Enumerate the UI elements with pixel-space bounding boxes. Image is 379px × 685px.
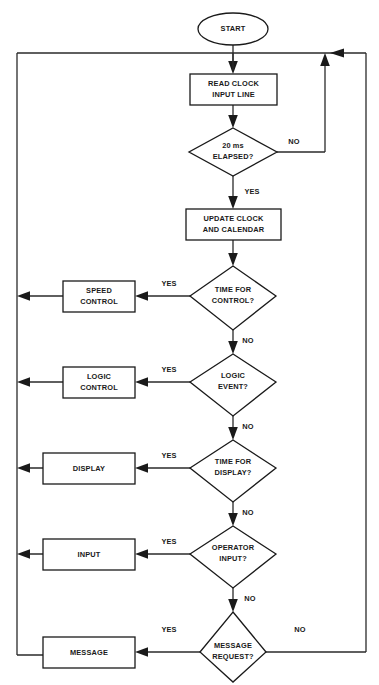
edge-label-elapsed-no: NO (288, 137, 299, 146)
edge-label-display-yes: YES (161, 451, 176, 460)
edge-label-operator-no: NO (244, 594, 255, 603)
node-time-for-control-line1: TIME FOR (215, 285, 252, 294)
edge-display-yes (135, 463, 194, 473)
edge-speed-control-to-bus (17, 291, 63, 301)
edge-label-control-no: NO (242, 336, 253, 345)
edge-operator-no (228, 588, 238, 612)
top-return-bus (17, 49, 366, 58)
edge-elapsed-no-return (277, 53, 330, 152)
edge-read-clock-to-elapsed (228, 105, 238, 128)
edge-logic-control-to-bus (17, 377, 63, 387)
node-time-for-display-line1: TIME FOR (215, 457, 252, 466)
edge-message-yes (135, 647, 200, 657)
node-start[interactable]: START (198, 13, 268, 45)
edge-logic-no (228, 416, 238, 440)
node-logic-control[interactable]: LOGIC CONTROL (63, 367, 135, 398)
arrowhead-top-left (330, 49, 344, 58)
node-message-request-line1: MESSAGE (214, 641, 252, 650)
node-message-request-decision[interactable]: MESSAGE REQUEST? (200, 612, 266, 682)
node-elapsed-line1: 20 ms (222, 141, 244, 150)
node-read-clock[interactable]: READ CLOCK INPUT LINE (190, 74, 277, 105)
node-logic-event-line2: EVENT? (218, 382, 248, 391)
edge-label-logic-yes: YES (161, 365, 176, 374)
node-operator-input-line1: OPERATOR (212, 543, 255, 552)
edge-label-logic-no: NO (242, 422, 253, 431)
node-speed-control-line1: SPEED (86, 286, 112, 295)
node-start-label: START (221, 24, 246, 33)
node-time-for-display-decision[interactable]: TIME FOR DISPLAY? (190, 440, 276, 502)
node-update-clock-line1: UPDATE CLOCK (204, 214, 264, 223)
edge-label-message-no: NO (294, 625, 305, 634)
edge-elapsed-yes (228, 176, 238, 209)
node-display[interactable]: DISPLAY (43, 453, 135, 484)
node-logic-event-decision[interactable]: LOGIC EVENT? (190, 354, 276, 416)
edge-label-message-yes: YES (161, 625, 176, 634)
node-time-for-control-line2: CONTROL? (212, 296, 255, 305)
node-operator-input-line2: INPUT? (219, 554, 247, 563)
node-message-line1: MESSAGE (70, 648, 108, 657)
node-input[interactable]: INPUT (43, 539, 135, 570)
node-update-clock-line2: AND CALENDAR (203, 225, 265, 234)
edge-operator-yes (135, 549, 194, 559)
node-time-for-display-line2: DISPLAY? (214, 468, 251, 477)
arrowhead-elapsed-no-up (320, 53, 330, 66)
node-logic-control-line2: CONTROL (80, 383, 118, 392)
edge-update-to-control (228, 240, 238, 266)
edge-control-no (228, 330, 238, 354)
node-message-request-line2: REQUEST? (212, 652, 254, 661)
edge-label-control-yes: YES (161, 279, 176, 288)
node-elapsed-decision[interactable]: 20 ms ELAPSED? (189, 128, 277, 176)
node-speed-control-line2: CONTROL (80, 297, 118, 306)
node-time-for-control-decision[interactable]: TIME FOR CONTROL? (190, 266, 276, 330)
edge-label-elapsed-yes: YES (244, 187, 259, 196)
node-operator-input-decision[interactable]: OPERATOR INPUT? (190, 526, 276, 588)
flowchart-canvas: START READ CLOCK INPUT LINE 20 ms ELAPSE… (0, 0, 379, 685)
right-return-bus (266, 53, 366, 652)
edge-control-yes (135, 291, 194, 301)
node-input-line1: INPUT (78, 550, 101, 559)
node-elapsed-line2: ELAPSED? (213, 152, 254, 161)
node-display-line1: DISPLAY (73, 464, 105, 473)
node-logic-event-line1: LOGIC (221, 371, 246, 380)
edge-logic-yes (135, 377, 194, 387)
node-logic-control-line1: LOGIC (87, 372, 112, 381)
node-message[interactable]: MESSAGE (43, 637, 135, 668)
node-read-clock-line2: INPUT LINE (212, 90, 255, 99)
node-speed-control[interactable]: SPEED CONTROL (63, 281, 135, 312)
edge-label-display-no: NO (242, 508, 253, 517)
node-update-clock[interactable]: UPDATE CLOCK AND CALENDAR (186, 209, 281, 240)
edge-display-no (228, 502, 238, 526)
edge-label-operator-yes: YES (161, 537, 176, 546)
node-read-clock-line1: READ CLOCK (208, 79, 259, 88)
flowchart-svg: START READ CLOCK INPUT LINE 20 ms ELAPSE… (0, 0, 379, 685)
